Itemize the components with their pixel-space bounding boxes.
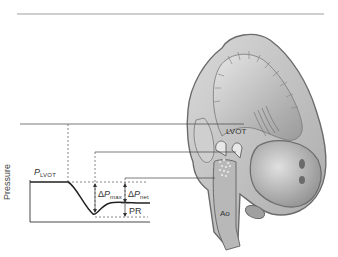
y-axis-label: Pressure bbox=[2, 164, 12, 200]
delta-p-net-label: ΔPnet bbox=[128, 190, 149, 200]
p-lvot-label: PLVOT bbox=[34, 168, 56, 178]
heart-illustration bbox=[187, 34, 326, 250]
pressure-recovery-label: PR bbox=[129, 207, 142, 216]
delta-p-max-label: ΔPmax bbox=[98, 190, 122, 200]
aorta-label: Ao bbox=[220, 210, 230, 218]
diagram-canvas bbox=[0, 0, 338, 257]
lvot-label: LVOT bbox=[226, 128, 246, 136]
